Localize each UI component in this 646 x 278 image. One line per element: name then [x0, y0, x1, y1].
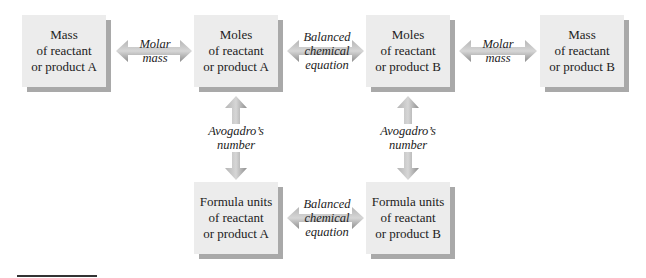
box-line: Mass	[549, 27, 615, 43]
box-line: or product A	[31, 59, 97, 75]
box-mass-a: Mass of reactant or product A	[22, 15, 106, 87]
box-line: of reactant	[549, 43, 615, 59]
box-line: or product A	[203, 59, 269, 75]
box-line: or product B	[375, 59, 441, 75]
box-line: Moles	[375, 27, 441, 43]
box-moles-b: Moles of reactant or product B	[366, 15, 450, 87]
label-balanced-equation-top: Balancedchemicalequation	[295, 30, 359, 72]
box-line: of reactant	[203, 43, 269, 59]
label-avogadro-b: Avogadro’snumber	[372, 124, 444, 152]
box-mass-b: Mass of reactant or product B	[540, 15, 624, 87]
box-line: of reactant	[200, 210, 273, 226]
footnote-rule	[17, 275, 97, 277]
box-moles-a: Moles of reactant or product A	[194, 15, 278, 87]
box-line: of reactant	[31, 43, 97, 59]
box-line: of reactant	[372, 210, 445, 226]
label-balanced-equation-bottom: Balancedchemicalequation	[295, 197, 359, 239]
box-line: Formula units	[200, 194, 273, 210]
box-line: Mass	[31, 27, 97, 43]
box-formula-a: Formula units of reactant or product A	[194, 182, 278, 254]
box-line: Formula units	[372, 194, 445, 210]
box-line: or product B	[372, 226, 445, 242]
label-avogadro-a: Avogadro’snumber	[200, 124, 272, 152]
box-formula-b: Formula units of reactant or product B	[366, 182, 450, 254]
box-line: or product B	[549, 59, 615, 75]
box-line: of reactant	[375, 43, 441, 59]
label-molar-mass-b: Molarmass	[473, 37, 523, 65]
label-molar-mass-a: Molarmass	[130, 37, 180, 65]
box-line: or product A	[200, 226, 273, 242]
box-line: Moles	[203, 27, 269, 43]
